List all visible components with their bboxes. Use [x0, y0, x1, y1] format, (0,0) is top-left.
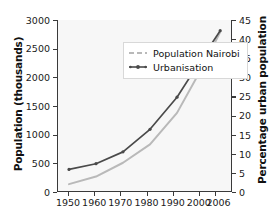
- y-axis-right-tick: 10: [239, 149, 265, 160]
- x-axis-tick-mark: [120, 192, 121, 196]
- legend-swatch-population-nairobi: [128, 48, 148, 58]
- legend-label: Urbanisation: [153, 62, 213, 73]
- x-axis-tick-mark: [94, 192, 95, 196]
- x-axis-tick-mark: [199, 192, 200, 196]
- x-axis-tick-mark: [68, 192, 69, 196]
- legend-label: Population Nairobi: [153, 48, 240, 59]
- y-axis-right-tick: 45: [239, 15, 265, 26]
- data-point-urbanisation: [219, 29, 222, 32]
- legend-item-urbanisation: Urbanisation: [128, 60, 240, 74]
- y-axis-right-tick: 5: [239, 168, 265, 179]
- population-urbanisation-chart: Population (thousands) Percentage urban …: [0, 0, 274, 219]
- y-axis-right-title: Percentage urban population: [256, 24, 268, 184]
- y-axis-left-tick: 2000: [16, 72, 50, 83]
- y-axis-left-tick: 1000: [16, 129, 50, 140]
- data-point-urbanisation: [67, 168, 70, 171]
- x-axis-tick-mark: [215, 192, 216, 196]
- y-axis-right-tick: 25: [239, 91, 265, 102]
- y-axis-left-tick: 3000: [16, 15, 50, 26]
- legend-item-population-nairobi: Population Nairobi: [128, 46, 240, 60]
- y-axis-left-tick: 500: [16, 158, 50, 169]
- legend: Population Nairobi Urbanisation: [123, 42, 248, 79]
- legend-swatch-urbanisation: [128, 62, 148, 72]
- y-axis-left-tick: 0: [16, 187, 50, 198]
- x-axis-tick-mark: [173, 192, 174, 196]
- y-axis-right-tick: 0: [239, 187, 265, 198]
- x-axis-tick-mark: [147, 192, 148, 196]
- y-axis-right-tick: 20: [239, 110, 265, 121]
- y-axis-left-tick: 1500: [16, 101, 50, 112]
- data-point-urbanisation: [175, 96, 178, 99]
- y-axis-right-tick-mark: [232, 192, 236, 193]
- data-point-urbanisation: [148, 128, 151, 131]
- x-axis-tick: 2006: [202, 197, 236, 208]
- data-point-urbanisation: [94, 162, 97, 165]
- y-axis-left-tick-mark: [53, 192, 57, 193]
- y-axis-right-tick: 15: [239, 130, 265, 141]
- y-axis-left-tick: 2500: [16, 43, 50, 54]
- plot-area: Population Nairobi Urbanisation: [57, 20, 232, 192]
- data-point-urbanisation: [121, 150, 124, 153]
